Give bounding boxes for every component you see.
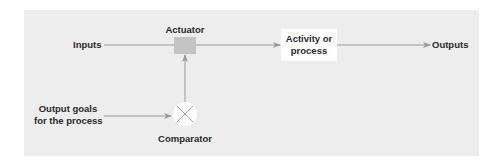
actuator-label: Actuator (160, 24, 210, 36)
actuator-box (174, 37, 196, 54)
output-goals-line2: for the process (34, 115, 103, 126)
connector-lines (0, 0, 495, 165)
x-circle-icon (173, 102, 197, 126)
comparator-label: Comparator (152, 133, 218, 145)
inputs-label: Inputs (73, 39, 102, 51)
output-goals-line1: Output goals (39, 103, 98, 114)
output-goals-label: Output goals for the process (34, 103, 102, 127)
activity-label-line1: Activity or (286, 33, 332, 44)
activity-label-line2: process (291, 45, 327, 56)
outputs-label: Outputs (432, 39, 468, 51)
activity-box: Activity or process (281, 29, 337, 61)
activity-label: Activity or process (286, 33, 332, 57)
